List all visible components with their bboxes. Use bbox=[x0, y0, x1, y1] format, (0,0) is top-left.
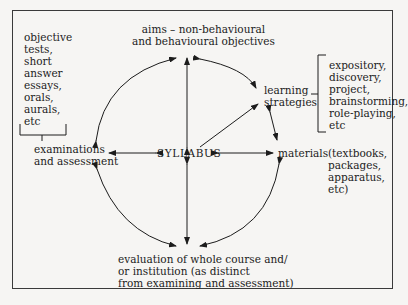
arrow-syllabus-learning bbox=[200, 104, 258, 147]
arrow-examinations-aims bbox=[96, 58, 176, 141]
node-syllabus: SYLLABUS bbox=[157, 147, 221, 159]
bracket-learning bbox=[318, 55, 326, 132]
annotation-materials-examples: (textbooks, packages, apparatus, etc) bbox=[328, 147, 387, 195]
annotation-learning-examples: expository, discovery, project, brainsto… bbox=[329, 59, 408, 131]
arrow-materials-evaluation bbox=[200, 164, 279, 246]
node-examinations: examinations and assessment bbox=[34, 143, 118, 167]
arrow-learning-materials bbox=[270, 112, 277, 140]
node-learning-strategies: learning strategies bbox=[264, 84, 317, 108]
arrow-aims-learning bbox=[200, 59, 256, 88]
node-materials: materials bbox=[278, 147, 328, 159]
node-aims: aims – non-behavioural and behavioural o… bbox=[132, 23, 275, 47]
node-evaluation: evaluation of whole course and/ or insti… bbox=[118, 253, 294, 289]
annotation-exam-examples: objective tests, short answer essays, or… bbox=[24, 31, 72, 127]
arrow-examinations-evaluation bbox=[97, 169, 176, 246]
